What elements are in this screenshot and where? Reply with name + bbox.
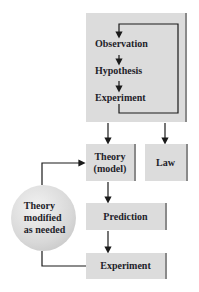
theory-model-box: Theory (model) xyxy=(86,144,136,181)
theory-label: Theory xyxy=(94,151,125,163)
circle-line-2: modified xyxy=(24,212,65,224)
experiment-label: Experiment xyxy=(100,260,151,272)
circle-line-1: Theory xyxy=(24,200,65,212)
step-observation: Observation xyxy=(95,38,148,49)
step-hypothesis: Hypothesis xyxy=(95,65,142,76)
law-label: Law xyxy=(156,157,175,169)
theory-modified-circle: Theory modified as needed xyxy=(11,185,76,251)
prediction-label: Prediction xyxy=(103,211,147,223)
experiment-box: Experiment xyxy=(86,253,167,279)
prediction-box: Prediction xyxy=(86,203,167,230)
circle-line-3: as needed xyxy=(24,224,65,236)
step-experiment: Experiment xyxy=(95,92,146,103)
model-label: (model) xyxy=(94,163,127,175)
law-box: Law xyxy=(145,144,188,181)
